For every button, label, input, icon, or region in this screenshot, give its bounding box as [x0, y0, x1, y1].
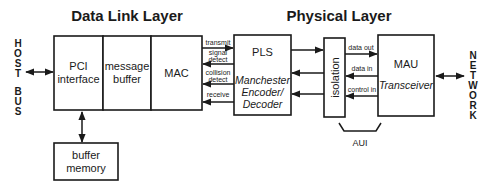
- aui-bracket: [339, 123, 381, 131]
- mau-label: MAU: [394, 58, 419, 70]
- svg-text:S: S: [15, 106, 22, 117]
- mau-block: [378, 35, 434, 116]
- pls-sub-label: Manchester: [235, 74, 290, 86]
- network-interface-diagram: Data Link Layer Physical Layer H O S T B…: [0, 0, 485, 188]
- svg-text:detect: detect: [208, 76, 227, 83]
- pci-label: PCI: [69, 60, 87, 72]
- svg-text:data in: data in: [351, 65, 372, 72]
- isolation-label: isolation: [329, 57, 341, 97]
- svg-text:collision: collision: [206, 69, 231, 76]
- pls-isolation-lines: [291, 50, 324, 94]
- aui-label: AUI: [352, 138, 367, 148]
- svg-text:transmit: transmit: [206, 39, 231, 46]
- buffer-memory-label-2: memory: [66, 162, 106, 174]
- svg-text:K: K: [469, 110, 477, 121]
- buffer-memory-label: buffer: [72, 149, 100, 161]
- mac-label: MAC: [164, 67, 189, 79]
- pci-label-2: interface: [57, 73, 99, 85]
- network-label: N E T W O R K: [468, 50, 478, 121]
- svg-text:detect: detect: [208, 56, 227, 63]
- svg-text:control in: control in: [348, 86, 377, 93]
- pls-sub-label-3: Decoder: [243, 98, 283, 110]
- data-link-layer-title: Data Link Layer: [71, 7, 183, 24]
- svg-text:data out: data out: [348, 44, 373, 51]
- mac-pls-signals: transmit signal detect collision detect …: [202, 39, 234, 102]
- pls-sub-label-2: Encoder/: [241, 86, 284, 98]
- mau-sub-label: Transceiver: [379, 79, 434, 91]
- message-buffer-label-2: buffer: [113, 73, 141, 85]
- pls-label: PLS: [252, 46, 273, 58]
- host-bus-label: H O S T B U S: [14, 38, 22, 117]
- svg-text:receive: receive: [207, 91, 230, 98]
- message-buffer-label: message: [105, 60, 150, 72]
- aui-signals: data out data in control in: [345, 44, 378, 96]
- svg-text:T: T: [15, 68, 21, 79]
- physical-layer-title: Physical Layer: [286, 7, 391, 24]
